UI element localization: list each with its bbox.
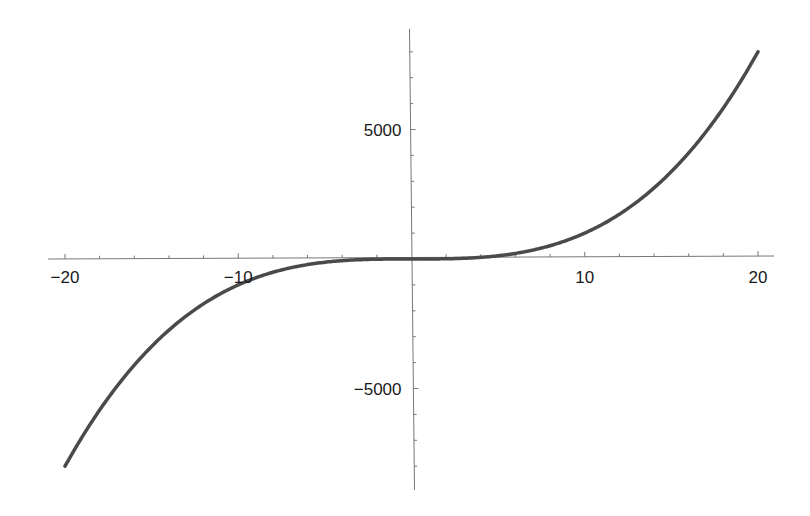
x-tick-label: 10 <box>575 268 594 287</box>
x-tick-label: −10 <box>224 268 253 287</box>
x-tick-label: −20 <box>51 268 80 287</box>
y-tick-label: −5000 <box>354 380 402 399</box>
plot-area: −20−1010205000−5000 <box>0 0 810 516</box>
y-tick-label: 5000 <box>364 121 402 140</box>
x-tick-label: 20 <box>749 268 768 287</box>
